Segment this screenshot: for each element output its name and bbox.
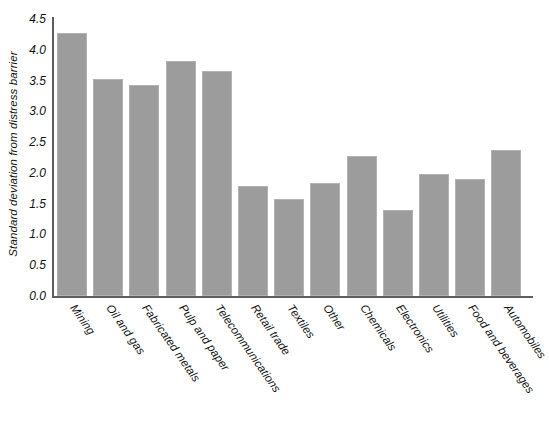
- x-tick-label: Utilities: [430, 302, 461, 339]
- x-tick-label: Textiles: [285, 302, 317, 340]
- bar: [202, 71, 232, 296]
- bar: [274, 199, 304, 296]
- bar: [491, 150, 521, 296]
- bar: [310, 183, 340, 296]
- x-tick-label: Telecommunications: [213, 302, 283, 394]
- bar: [129, 85, 159, 296]
- x-tick-label: Electronics: [394, 302, 436, 355]
- bar: [419, 174, 449, 296]
- x-tick-label: Chemicals: [358, 302, 399, 353]
- bar: [347, 156, 377, 296]
- bar: [238, 186, 268, 296]
- x-tick-label: Other: [322, 302, 348, 332]
- bar: [455, 179, 485, 296]
- bar: [93, 79, 123, 296]
- bar: [166, 61, 196, 296]
- x-tick-label: Mining: [68, 302, 97, 337]
- x-tick-label: Food and beverages: [466, 302, 536, 395]
- bar: [383, 210, 413, 296]
- bar: [57, 33, 87, 296]
